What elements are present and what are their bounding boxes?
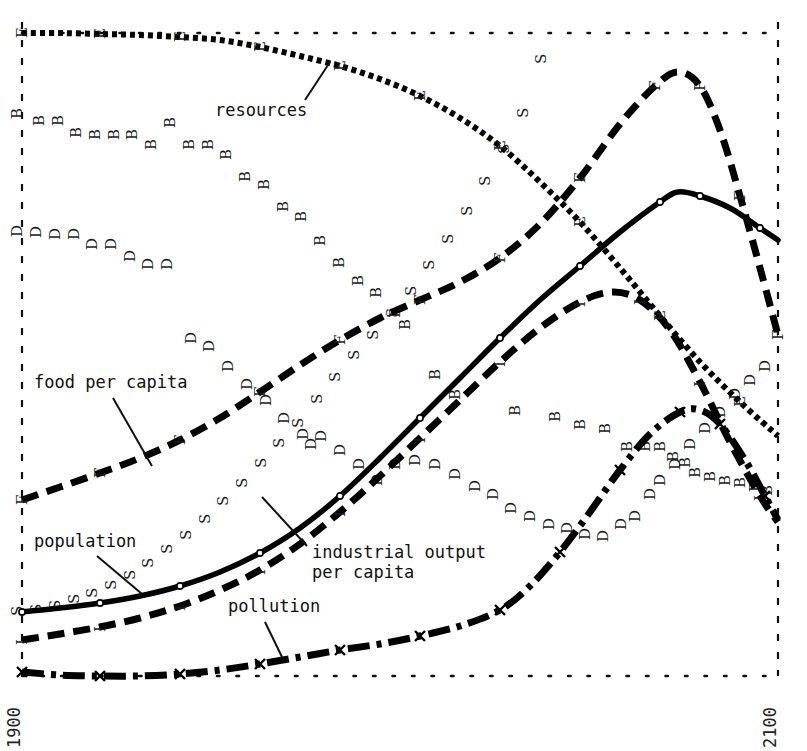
curve-marker-circle — [497, 335, 503, 341]
scatter-marker-s: S — [102, 580, 120, 590]
curve-marker-i: I — [491, 361, 509, 367]
scatter-marker-s: S — [326, 372, 344, 382]
scatter-marker-d: D — [426, 458, 444, 470]
curve-marker-f: F — [731, 191, 749, 201]
scatter-marker-s: S — [345, 350, 363, 360]
pollution-label: pollution — [228, 596, 320, 616]
scatter-marker-s: S — [158, 544, 176, 554]
scatter-group-b: BBBBBBBBBBBBBBBBBBBBBBBBBBBBBBBBBBBBBBB — [8, 108, 776, 496]
curve-marker-i: I — [251, 569, 269, 575]
scatter-marker-d: D — [666, 458, 684, 470]
scatter-marker-d: D — [406, 454, 424, 466]
scatter-marker-s: S — [214, 496, 232, 506]
curve-marker-f: F — [331, 335, 349, 345]
food-per-capita-label: food per capita — [34, 372, 188, 392]
scatter-marker-b: B — [274, 201, 292, 212]
scatter-marker-d: D — [521, 510, 539, 522]
scatter-marker-b: B — [199, 139, 217, 150]
curve-marker-e: E — [331, 60, 349, 71]
annotation-pollution[interactable]: pollution — [228, 596, 320, 657]
curve-marker-e: E — [13, 27, 31, 38]
curve-marker-e: E — [251, 41, 269, 52]
scatter-marker-d: D — [540, 518, 558, 530]
curve-marker-e: E — [651, 310, 669, 321]
x-tick-label-1900: 1900 — [4, 707, 24, 748]
curve-marker-circle — [657, 199, 663, 205]
curve-marker-i: I — [691, 381, 709, 387]
curve-marker-i: I — [13, 639, 31, 645]
scatter-marker-b: B — [367, 287, 385, 298]
scatter-marker-s: S — [364, 330, 382, 340]
scatter-marker-s: S — [308, 394, 326, 404]
curve-marker-f: F — [571, 173, 589, 183]
scatter-marker-s: S — [420, 260, 438, 270]
scatter-marker-d: D — [8, 225, 26, 237]
scatter-marker-b: B — [67, 127, 85, 138]
scatter-marker-d: D — [182, 332, 200, 344]
scatter-marker-d: D — [696, 422, 714, 434]
curve-marker-i: I — [571, 301, 589, 307]
curve-marker-e: E — [731, 396, 749, 407]
curve-marker-e: E — [491, 140, 509, 151]
scatter-marker-d: D — [102, 238, 120, 250]
scatter-marker-b: B — [161, 117, 179, 128]
scatter-marker-b: B — [618, 441, 636, 452]
scatter-marker-s: S — [65, 594, 83, 604]
curve-marker-e: E — [411, 90, 429, 101]
population-label: population — [34, 531, 136, 551]
scatter-marker-b: B — [546, 411, 564, 422]
scatter-marker-d: D — [446, 468, 464, 480]
scatter-marker-b: B — [8, 108, 26, 119]
scatter-marker-d: D — [121, 250, 139, 262]
scatter-marker-b: B — [86, 129, 104, 140]
curve-marker-i: I — [411, 437, 429, 443]
curve-marker-circle — [337, 493, 343, 499]
curve-marker-f: F — [13, 495, 31, 505]
curve-marker-e: E — [571, 216, 589, 227]
scatter-marker-d: D — [594, 530, 612, 542]
scatter-marker-b: B — [349, 275, 367, 286]
scatter-marker-s: S — [270, 438, 288, 448]
annotation-industrial-output-per-capita[interactable]: industrial output per capita — [262, 497, 486, 582]
scatter-marker-b: B — [292, 211, 310, 222]
curve-marker-i: I — [91, 626, 109, 632]
curve-marker-f: F — [411, 295, 429, 305]
scatter-marker-d: D — [741, 374, 759, 386]
scatter-marker-d: D — [331, 444, 349, 456]
annotation-population[interactable]: population — [34, 531, 142, 594]
scatter-marker-b: B — [255, 179, 273, 190]
scatter-marker-s: S — [514, 108, 532, 118]
world3-chart-figure: BBBBBBBBBBBBBBBBBBBBBBBBBBBBBBBBBBBBBBBD… — [0, 0, 807, 751]
world3-plot-svg: BBBBBBBBBBBBBBBBBBBBBBBBBBBBBBBBBBBBBBBD… — [0, 0, 807, 751]
scatter-marker-d: D — [350, 458, 368, 470]
annotation-food-per-capita[interactable]: food per capita — [34, 372, 188, 466]
scatter-marker-d: D — [200, 340, 218, 352]
curve-marker-e: E — [91, 28, 109, 39]
scatter-marker-b: B — [506, 405, 524, 416]
curve-marker-circle — [19, 609, 25, 615]
scatter-marker-b: B — [571, 419, 589, 430]
scatter-marker-d: D — [65, 228, 83, 240]
scatter-marker-s: S — [439, 234, 457, 244]
scatter-marker-s: S — [476, 176, 494, 186]
curve-marker-f: F — [691, 81, 709, 91]
scatter-marker-d: D — [756, 360, 774, 372]
scatter-marker-b: B — [142, 139, 160, 150]
scatter-marker-s: S — [233, 478, 251, 488]
x-tick-label-2100: 2100 — [760, 707, 780, 748]
scatter-marker-b: B — [30, 115, 48, 126]
scatter-marker-s: S — [196, 514, 214, 524]
curve-marker-f: F — [646, 81, 664, 91]
scatter-marker-d: D — [484, 488, 502, 500]
scatter-marker-d: D — [219, 360, 237, 372]
curve-marker-circle — [757, 225, 763, 231]
curve-marker-f: F — [91, 468, 109, 478]
resources-leader-line — [305, 62, 330, 100]
scatter-marker-b: B — [426, 369, 444, 380]
curve-marker-circle — [97, 600, 103, 606]
scatter-marker-s: S — [252, 458, 270, 468]
curve-marker-circle — [577, 263, 583, 269]
annotation-resources[interactable]: resources — [215, 62, 330, 120]
scatter-marker-b: B — [236, 171, 254, 182]
scatter-marker-s: S — [83, 588, 101, 598]
